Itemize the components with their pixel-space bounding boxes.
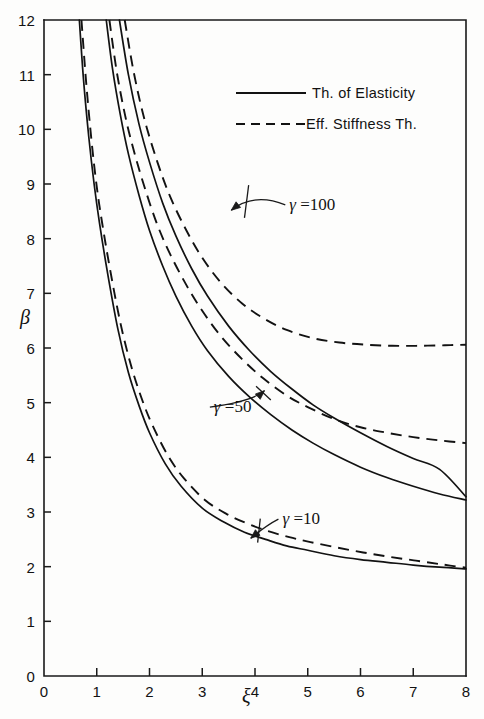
y-tick-label-1: 1	[26, 613, 35, 630]
annotation-leaders-group	[210, 185, 285, 543]
leader-arrowhead-gamma-100	[231, 202, 240, 210]
x-axis-title: ξ	[242, 685, 251, 708]
curve-label-gamma-10: γ =10	[282, 509, 320, 529]
x-tick-label-1: 1	[92, 683, 101, 700]
y-tick-label-6: 6	[26, 340, 35, 357]
x-tick-label-6: 6	[356, 683, 365, 700]
x-tick-label-4: 4	[251, 683, 260, 700]
x-tick-label-7: 7	[409, 683, 418, 700]
figure-root: 0123456789101112012345678 β ξ γ =100γ =5…	[0, 0, 484, 719]
y-tick-label-10: 10	[18, 121, 35, 138]
leader-line-gamma-100	[231, 200, 285, 211]
plot-canvas	[0, 0, 484, 719]
x-tick-label-5: 5	[303, 683, 312, 700]
y-tick-label-4: 4	[26, 449, 35, 466]
legend-label-eff-stiffness-th: Eff. Stiffness Th.	[306, 116, 417, 132]
curves-group	[79, 20, 466, 569]
x-tick-label-0: 0	[40, 683, 49, 700]
y-tick-label-9: 9	[26, 176, 35, 193]
y-tick-label-11: 11	[19, 66, 35, 83]
curve-gamma-50-dashed	[109, 20, 466, 443]
x-tick-label-8: 8	[462, 683, 471, 700]
y-axis-title: β	[20, 306, 30, 329]
y-tick-label-3: 3	[26, 504, 35, 521]
y-tick-label-5: 5	[26, 394, 35, 411]
x-tick-label-2: 2	[145, 683, 154, 700]
y-tick-label-0: 0	[26, 668, 35, 685]
curve-label-gamma-50: γ =50	[214, 397, 252, 417]
legend-sample-lines	[236, 93, 306, 124]
y-tick-label-8: 8	[26, 230, 35, 247]
curve-gamma-10-solid	[79, 20, 466, 569]
x-tick-label-3: 3	[198, 683, 207, 700]
curve-label-gamma-100: γ =100	[289, 195, 335, 215]
y-tick-label-12: 12	[18, 12, 35, 29]
y-tick-label-2: 2	[26, 558, 35, 575]
legend-label-th-of-elasticity: Th. of Elasticity	[312, 85, 415, 101]
y-tick-label-7: 7	[26, 285, 35, 302]
